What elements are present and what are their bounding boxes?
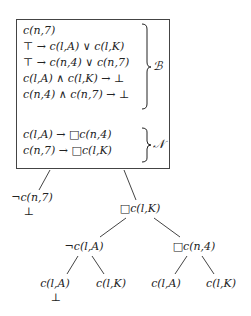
leaf-c-lk-1: c(l,K) (96, 277, 126, 290)
closed-branch-icon: ⊥ (24, 205, 34, 218)
node-not-c-n7: ¬c(n,7) (11, 191, 53, 204)
leaf-c-lk-2: c(l,K) (206, 277, 236, 290)
formula-n-2: c(n,7) → □c(l,K) (23, 144, 112, 157)
label-b: ℬ (153, 59, 162, 73)
leaf-c-la-1: c(l,A) (40, 277, 70, 290)
node-not-c-la: ¬c(l,A) (65, 240, 104, 253)
node-box-c-lk: □c(l,K) (120, 202, 160, 215)
label-n: 𝒩 (153, 137, 164, 151)
brace-n-icon (142, 128, 151, 162)
leaf-c-la-2: c(l,A) (151, 277, 181, 290)
closed-branch-icon: ⊥ (51, 291, 61, 304)
brace-b-icon (142, 24, 151, 109)
node-box-c-n4: □c(n,4) (173, 240, 216, 253)
diagram-lines (0, 0, 251, 316)
formula-n-1: c(l,A) → □c(n,4) (23, 128, 112, 141)
